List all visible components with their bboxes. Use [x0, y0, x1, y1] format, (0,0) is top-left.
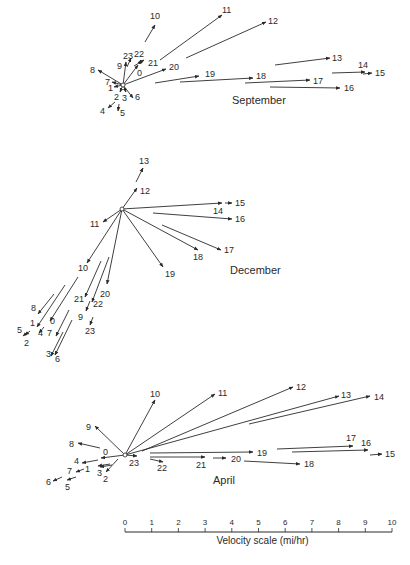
velocity-scale-tick-label: 9 [363, 518, 368, 527]
april-wind-vector-hour-11 [125, 394, 215, 455]
april-wind-vector-hour-9 [95, 426, 125, 455]
december-hour-label: 3 [46, 349, 51, 359]
december-wind-vector-hour-13 [136, 168, 143, 182]
velocity-scale-tick-label: 1 [149, 518, 154, 527]
september-hour-label: 0 [137, 68, 142, 78]
december-hour-label: 19 [165, 269, 175, 279]
april-hour-label: 17 [346, 433, 356, 443]
april-hour-label: 9 [86, 422, 91, 432]
september-hour-label: 3 [122, 93, 127, 103]
april-wind-vector-hour-4 [82, 460, 98, 463]
april-wind-vector-hour-13 [125, 396, 339, 455]
september-wind-vector-hour-16 [270, 87, 340, 88]
april-wind-vector-hour-16 [292, 450, 368, 452]
december-hour-label: 18 [193, 252, 203, 262]
september-wind-vector-hour-14 [332, 72, 365, 73]
september-hour-label: 17 [313, 76, 323, 86]
velocity-scale-tick-label: 0 [123, 518, 128, 527]
april-hour-label: 20 [231, 454, 241, 464]
december-origin-marker [120, 207, 124, 211]
april-origin-marker [123, 453, 127, 457]
september-wind-vector-hour-15 [363, 73, 372, 74]
april-hour-label: 4 [74, 456, 79, 466]
december-hour-label: 1 [30, 318, 35, 328]
september-wind-vector-hour-5 [118, 104, 119, 111]
velocity-scale-tick-label: 3 [203, 518, 208, 527]
velocity-scale-tick-label: 6 [283, 518, 288, 527]
september-wind-vector-hour-17 [245, 80, 310, 83]
december-hour-label: 8 [31, 303, 36, 313]
september-hour-label: 16 [344, 83, 354, 93]
december-vectors: 01234567891011121314151617181920212223 [17, 156, 245, 364]
panel-april: 01234567891011121314151617181920212223 A… [46, 382, 395, 492]
april-wind-vector-hour-14 [249, 396, 370, 424]
velocity-scale-tick-label: 10 [388, 518, 397, 527]
september-wind-vector-hour-11 [160, 15, 222, 60]
april-hour-label: 6 [46, 477, 51, 487]
december-hour-label: 21 [74, 294, 84, 304]
december-wind-vector-hour-6 [55, 320, 72, 355]
april-panel-title: April [213, 474, 235, 486]
september-wind-vector-hour-12 [186, 22, 266, 58]
december-hour-label: 2 [24, 338, 29, 348]
december-hour-label: 14 [213, 206, 223, 216]
december-hour-label: 4 [38, 328, 43, 338]
april-hour-label: 15 [385, 449, 395, 459]
december-hour-label: 20 [100, 289, 110, 299]
december-wind-vector-hour-9 [86, 301, 90, 311]
april-wind-vector-hour-18 [244, 461, 300, 464]
september-wind-vector-hour-19 [155, 76, 199, 83]
december-hour-label: 22 [93, 299, 103, 309]
september-hour-label: 13 [332, 53, 342, 63]
velocity-scale-tick-label: 8 [336, 518, 341, 527]
september-hour-label: 14 [358, 60, 368, 70]
april-wind-vector-hour-15 [370, 454, 382, 455]
december-wind-vector-hour-3 [51, 332, 63, 356]
september-hour-label: 12 [268, 16, 278, 26]
december-hour-label: 5 [17, 325, 22, 335]
april-hour-label: 5 [65, 482, 70, 492]
september-hour-label: 10 [150, 11, 160, 21]
april-hour-label: 1 [85, 464, 90, 474]
velocity-scale-tick-label: 5 [256, 518, 261, 527]
april-hour-label: 16 [361, 438, 371, 448]
april-wind-vector-hour-19 [150, 452, 253, 453]
december-panel-title: December [230, 264, 281, 276]
september-wind-vector-hour-4 [108, 102, 115, 108]
september-hour-label: 21 [148, 58, 158, 68]
december-hour-label: 15 [235, 198, 245, 208]
september-wind-vector-hour-10 [145, 25, 155, 42]
velocity-scale-title: Velocity scale (mi/hr) [216, 535, 308, 546]
december-wind-vector-hour-14 [122, 203, 222, 209]
april-hour-label: 0 [103, 447, 108, 457]
april-wind-vector-hour-7 [76, 469, 84, 472]
december-hour-label: 9 [78, 312, 83, 322]
april-hour-label: 22 [157, 463, 167, 473]
december-wind-vector-hour-2 [25, 331, 30, 335]
april-hour-label: 18 [304, 459, 314, 469]
september-hour-label: 5 [120, 108, 125, 118]
december-hour-label: 6 [55, 354, 60, 364]
april-hour-label: 10 [150, 389, 160, 399]
april-wind-vector-hour-5 [67, 477, 76, 480]
september-hour-label: 7 [105, 77, 110, 87]
september-hour-label: 2 [114, 92, 119, 102]
april-hour-label: 21 [196, 460, 206, 470]
september-hour-label: 23 [123, 51, 133, 61]
december-hour-label: 23 [85, 326, 95, 336]
december-wind-vector-hour-19 [122, 209, 163, 267]
september-hour-label: 19 [205, 69, 215, 79]
december-hour-label: 12 [140, 186, 150, 196]
december-hour-label: 11 [90, 219, 99, 229]
april-hour-label: 14 [374, 392, 384, 402]
december-wind-vector-hour-12 [122, 188, 137, 209]
december-hour-label: 0 [50, 316, 55, 326]
april-wind-vector-hour-8 [78, 443, 100, 448]
september-panel-title: September [232, 94, 286, 106]
december-wind-vector-hour-23 [90, 317, 93, 325]
september-wind-vector-hour-13 [275, 58, 330, 65]
april-wind-vector-hour-17 [277, 446, 353, 449]
april-wind-vector-hour-6 [53, 477, 62, 481]
september-origin-marker [121, 83, 125, 87]
september-hour-label: 15 [375, 68, 385, 78]
